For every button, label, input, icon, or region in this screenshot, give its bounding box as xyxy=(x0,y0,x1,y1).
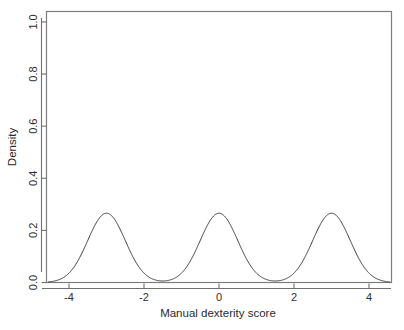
y-tick-label: 0.6 xyxy=(27,119,39,134)
y-axis: 0.00.20.40.60.81.0 Density xyxy=(6,14,47,290)
x-axis-tick-labels: -4-2024 xyxy=(64,291,372,303)
x-axis-ticks xyxy=(69,284,369,289)
plot-panel-border xyxy=(47,12,392,283)
x-axis-title: Manual dexterity score xyxy=(160,307,276,319)
y-tick-label: 0.4 xyxy=(27,171,39,186)
x-tick-label: 0 xyxy=(216,291,222,303)
y-axis-title: Density xyxy=(6,128,18,167)
y-tick-label: 1.0 xyxy=(27,14,39,29)
x-axis: -4-2024 Manual dexterity score xyxy=(42,284,391,320)
y-tick-label: 0.8 xyxy=(27,66,39,81)
y-axis-tick-labels: 0.00.20.40.60.81.0 xyxy=(27,14,39,290)
y-axis-ticks xyxy=(42,22,47,283)
x-tick-label: -4 xyxy=(64,291,74,303)
density-plot-figure: 0.00.20.40.60.81.0 Density -4-2024 Manua… xyxy=(0,0,404,330)
x-tick-label: -2 xyxy=(139,291,149,303)
density-curve xyxy=(48,213,389,282)
x-tick-label: 2 xyxy=(291,291,297,303)
y-tick-label: 0.0 xyxy=(27,275,39,290)
x-tick-label: 4 xyxy=(366,291,372,303)
chart-canvas: 0.00.20.40.60.81.0 Density -4-2024 Manua… xyxy=(0,0,404,330)
page-caption-remnant xyxy=(0,323,404,330)
y-tick-label: 0.2 xyxy=(27,223,39,238)
